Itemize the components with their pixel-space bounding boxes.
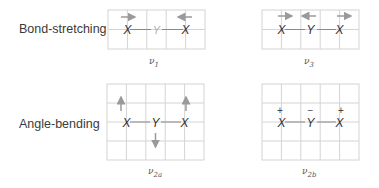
mode-label-v1: ν1 — [149, 56, 159, 69]
mode-label-v2a: ν2a — [148, 166, 162, 179]
svg-text:X: X — [276, 23, 286, 37]
svg-text:Y: Y — [306, 116, 315, 130]
svg-text:X: X — [335, 116, 345, 130]
vibrational-modes-diagram: X Y X X Y X X Y X — [0, 0, 379, 188]
svg-text:X: X — [335, 23, 345, 37]
atom-x-left: X — [122, 23, 132, 37]
molecule-v2b: X Y X + − + — [276, 105, 344, 130]
plus-sign-icon: + — [338, 105, 344, 116]
svg-text:X: X — [180, 116, 190, 130]
svg-text:Y: Y — [151, 116, 160, 130]
svg-text:X: X — [276, 116, 286, 130]
molecule-v1: X Y X — [121, 17, 192, 37]
minus-sign-icon: − — [308, 105, 314, 116]
mode-label-v3: ν3 — [304, 56, 314, 69]
svg-text:X: X — [121, 116, 131, 130]
plus-sign-icon: + — [277, 105, 283, 116]
atom-y-faded: Y — [153, 24, 161, 36]
molecule-v2a: X Y X — [121, 97, 190, 147]
svg-text:Y: Y — [306, 23, 315, 37]
atom-x-right: X — [181, 23, 191, 37]
mode-label-v2b: ν2b — [302, 166, 316, 179]
